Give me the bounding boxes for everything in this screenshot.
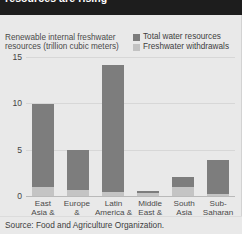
- bar-group: [200, 57, 235, 196]
- bar-group: [61, 57, 96, 196]
- legend-item-total: Total water resources: [133, 32, 229, 42]
- y-tick-10: 10: [12, 98, 22, 108]
- y-tick-15: 15: [12, 52, 22, 62]
- bar-freshwater-withdrawals: [172, 187, 194, 196]
- chart-figure: resources are rising Renewable internal …: [0, 0, 242, 234]
- chart-legend: Total water resources Freshwater withdra…: [133, 32, 229, 52]
- bar-group: [130, 57, 165, 196]
- bar-group: [26, 57, 61, 196]
- bar-total-water-resources: [207, 160, 229, 196]
- page-title: resources are rising: [5, 0, 107, 4]
- bar-total-water-resources: [32, 104, 54, 196]
- y-axis-ticks: 0 5 10 15: [0, 57, 24, 196]
- bar-series-container: [26, 57, 235, 196]
- bar-total-water-resources: [102, 65, 124, 196]
- y-tick-5: 5: [17, 145, 22, 155]
- y-tick-0: 0: [17, 191, 22, 201]
- bar-freshwater-withdrawals: [32, 187, 54, 196]
- plot-area: [26, 57, 235, 196]
- bar-group: [96, 57, 131, 196]
- chart-panel: Renewable internal freshwater resources …: [0, 15, 242, 216]
- x-axis-line: [26, 196, 235, 197]
- source-text: Source: Food and Agriculture Organizatio…: [5, 220, 164, 230]
- chart-title-bar: resources are rising: [0, 0, 242, 15]
- legend-item-freshwater: Freshwater withdrawals: [133, 42, 229, 52]
- source-note: Source: Food and Agriculture Organizatio…: [0, 216, 242, 234]
- y-axis-label: Renewable internal freshwater resources …: [5, 33, 125, 52]
- square-swatch-icon: [133, 34, 140, 41]
- bar-total-water-resources: [67, 150, 89, 196]
- legend-label: Total water resources: [143, 32, 221, 42]
- square-swatch-icon: [133, 44, 140, 51]
- bar-group: [165, 57, 200, 196]
- legend-label: Freshwater withdrawals: [143, 42, 229, 52]
